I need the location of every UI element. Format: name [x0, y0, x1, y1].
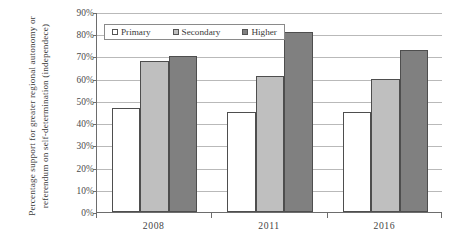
- x-axis-tick-label-2008: 2008: [143, 220, 165, 232]
- x-axis-tick-marks: [96, 213, 442, 219]
- legend-item-primary: Primary: [112, 27, 151, 37]
- bar-secondary-2016: [371, 79, 400, 212]
- y-axis-tick-label: 0%: [58, 208, 94, 218]
- y-axis-tick-label: 10%: [58, 186, 94, 196]
- bar-higher-2016: [400, 50, 429, 212]
- legend-swatch-secondary-icon: [173, 29, 179, 35]
- y-axis-tick-label: 60%: [58, 75, 94, 85]
- y-axis-title: Percentage support for greater regional …: [18, 8, 60, 223]
- x-axis-tick-mark: [211, 213, 212, 218]
- y-axis-tick-label: 20%: [58, 164, 94, 174]
- y-axis-tick-label: 80%: [58, 30, 94, 40]
- bar-primary-2011: [227, 112, 256, 212]
- y-axis-tick-labels: 0%10%20%30%40%50%60%70%80%90%: [58, 13, 94, 213]
- bar-secondary-2011: [256, 76, 285, 212]
- bar-chart-figure: Percentage support for greater regional …: [0, 0, 460, 246]
- bar-primary-2008: [112, 108, 141, 212]
- bar-higher-2008: [169, 56, 198, 212]
- legend-label: Higher: [251, 27, 277, 37]
- legend-swatch-higher-icon: [242, 29, 248, 35]
- y-axis-tick-label: 40%: [58, 119, 94, 129]
- x-axis-tick-labels: 200820112016: [96, 220, 442, 238]
- legend-label: Primary: [121, 27, 151, 37]
- plot-area: [96, 13, 442, 213]
- y-axis-tick-label: 90%: [58, 8, 94, 18]
- chart-legend: PrimarySecondaryHigher: [104, 24, 285, 40]
- y-axis-tick-label: 50%: [58, 97, 94, 107]
- bar-secondary-2008: [140, 61, 169, 212]
- y-axis-tick-label: 70%: [58, 52, 94, 62]
- bar-group-2011: [212, 13, 327, 212]
- bar-group-2008: [97, 13, 212, 212]
- bar-primary-2016: [343, 112, 372, 212]
- bar-group-2016: [328, 13, 443, 212]
- legend-item-secondary: Secondary: [173, 27, 221, 37]
- legend-item-higher: Higher: [242, 27, 277, 37]
- x-axis-tick-label-2011: 2011: [258, 220, 279, 232]
- x-axis-tick-label-2016: 2016: [373, 220, 395, 232]
- x-axis-tick-mark: [96, 213, 97, 218]
- bars-layer: [97, 13, 442, 212]
- legend-label: Secondary: [182, 27, 221, 37]
- x-axis-tick-mark: [327, 213, 328, 218]
- x-axis-tick-mark: [441, 213, 442, 218]
- y-axis-title-text: Percentage support for greater regional …: [26, 10, 52, 222]
- y-axis-tick-label: 30%: [58, 141, 94, 151]
- bar-higher-2011: [284, 32, 313, 212]
- legend-swatch-primary-icon: [112, 29, 118, 35]
